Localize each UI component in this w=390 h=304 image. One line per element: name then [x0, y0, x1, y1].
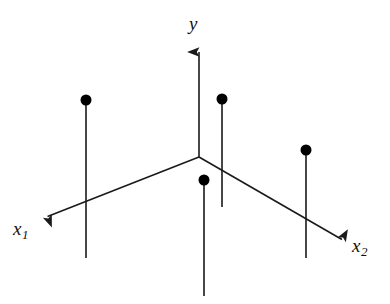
data-point-dot [301, 145, 312, 156]
x2-axis-label-subscript: 2 [360, 244, 367, 259]
x2-axis-label: x2 [352, 236, 367, 258]
data-point-dot [81, 95, 92, 106]
y-axis-label-text: y [189, 13, 197, 34]
x1-axis-label-subscript: 1 [21, 227, 28, 242]
y-axis-label: y [189, 14, 197, 33]
axes-and-stems-drawing [0, 0, 390, 304]
coordinate-axes-figure: y x1 x2 [0, 0, 390, 304]
data-point-dot [217, 94, 228, 105]
x1-axis-line [48, 157, 199, 216]
x1-axis-label: x1 [13, 219, 28, 241]
data-point-dot [199, 175, 210, 186]
x2-axis-line [199, 157, 342, 240]
